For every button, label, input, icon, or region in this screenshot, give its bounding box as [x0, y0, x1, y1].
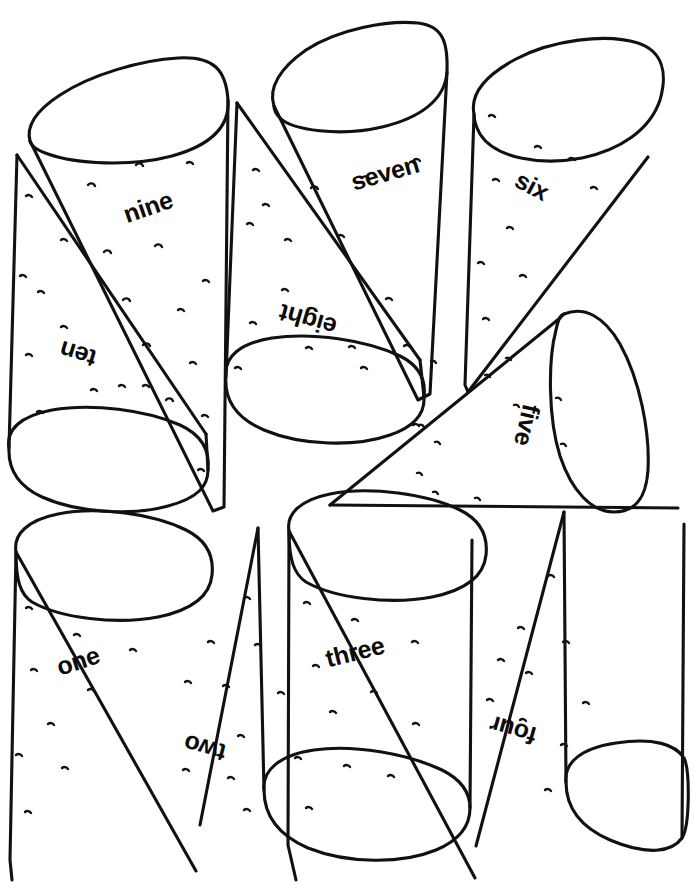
worksheet-page: .ink { fill:none; stroke:#111111; stroke… [0, 0, 695, 893]
page-background [0, 0, 695, 893]
cones-artwork: .ink { fill:none; stroke:#111111; stroke… [0, 0, 695, 893]
